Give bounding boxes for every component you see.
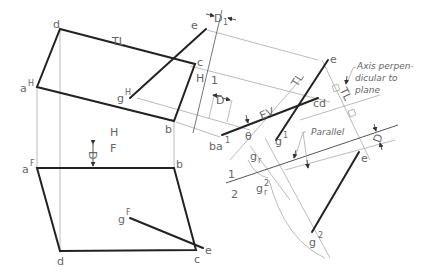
fold-label-h-left: H (196, 72, 204, 85)
aux2-label-gr: g (256, 182, 263, 195)
top-label-g: g (117, 92, 124, 105)
front-label-a-sup: F (30, 159, 35, 168)
aux1-label-cd: cd (313, 97, 326, 110)
aux2-label-g: g (309, 236, 316, 249)
aux2-label-gr-sub: r (264, 188, 268, 197)
front-dim-d: D (86, 151, 99, 159)
top-view: d TL e c a H g H b (20, 18, 206, 136)
note-parallel: Parallel (311, 127, 345, 137)
top-label-e: e (191, 19, 198, 32)
front-label-b: b (176, 158, 183, 171)
top-label-a: a (20, 82, 27, 95)
front-label-g-sup: F (126, 208, 131, 217)
front-view: a F b g F d c e D (22, 144, 212, 268)
aux1-label-ba: ba (209, 140, 223, 153)
front-label-e: e (205, 244, 212, 257)
aux2-label-e: e (361, 152, 368, 165)
annotations: Axis perpen- dicular to plane Parallel (294, 61, 414, 168)
fold-label-1-top: 1 (228, 168, 235, 181)
front-label-g: g (118, 213, 125, 226)
descriptive-geometry-diagram: H F H 1 1 2 d TL e c a H g H b a F b g F… (0, 0, 433, 273)
aux1-label-g: g (275, 135, 282, 148)
aux2-label-gr-sup: 2 (264, 179, 269, 188)
top-label-c: c (197, 56, 203, 69)
top-label-b: b (165, 123, 172, 136)
note-axis-line3: plane (354, 85, 380, 95)
aux1-label-ev: EV (258, 105, 277, 123)
top-label-g-sup: H (125, 88, 131, 97)
front-label-a: a (22, 163, 29, 176)
fold-label-1-right: 1 (211, 74, 218, 87)
fold-label-h-top: H (110, 126, 118, 139)
top-label-tl: TL (111, 35, 126, 48)
fold-label-f-bottom: F (110, 142, 116, 155)
aux1-dim-d: D (216, 94, 224, 107)
front-label-d: d (57, 255, 64, 268)
note-axis-line2: dicular to (355, 73, 398, 83)
aux1-label-g-sup: 1 (283, 131, 288, 140)
top-label-a-sup: H (28, 79, 34, 88)
aux1-dim-d1-sub: 1 (223, 18, 228, 27)
fold-label-2-bottom: 2 (231, 188, 238, 201)
aux1-label-tl: TL (288, 71, 307, 90)
note-axis-line1: Axis perpen- (356, 61, 414, 71)
aux1-label-gr: g (250, 150, 257, 163)
aux1-dim-d1: D (214, 12, 222, 25)
aux1-label-theta: θ (245, 130, 252, 143)
aux2-dim-d: D (371, 132, 386, 144)
front-label-c: c (194, 253, 200, 266)
top-label-d: d (53, 18, 60, 31)
aux2-label-g-sup: 2 (318, 231, 323, 240)
aux1-label-e: e (330, 53, 337, 66)
aux1-label-gr-sub: r (258, 156, 262, 165)
aux1-label-ba-sup: 1 (225, 136, 230, 145)
